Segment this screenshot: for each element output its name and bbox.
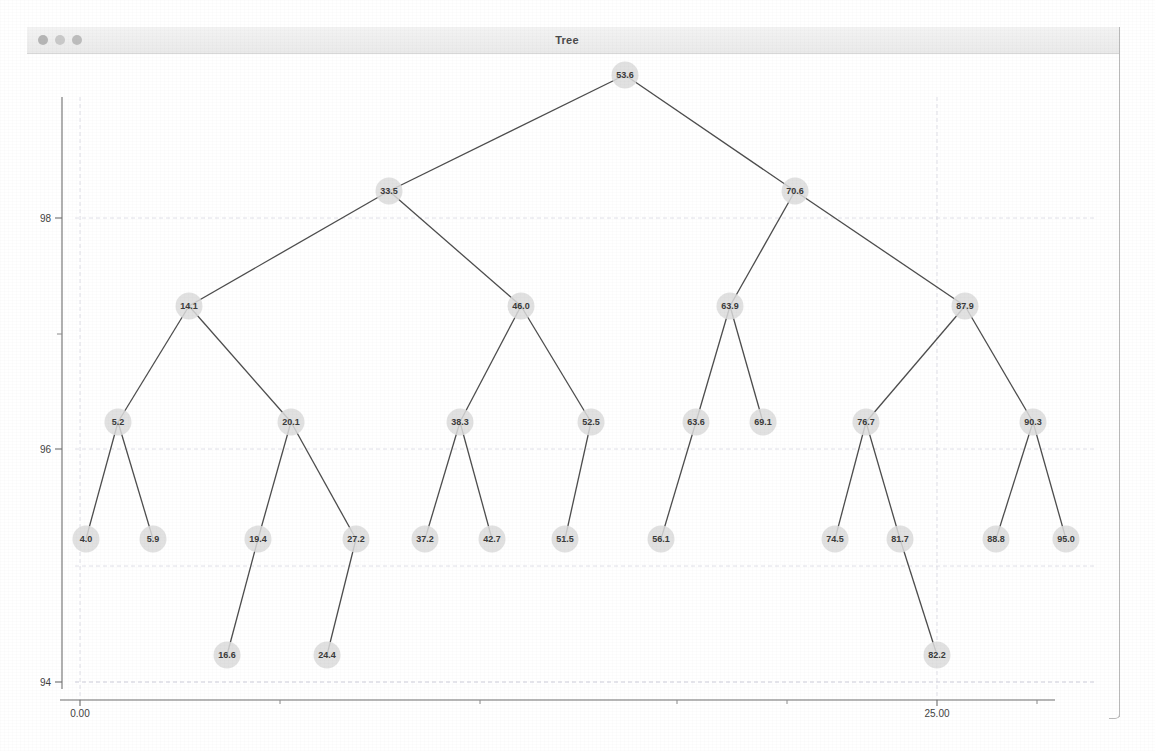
tree-node[interactable]: 20.1 [278,409,305,436]
tree-node-label: 70.6 [786,186,804,196]
window-title: Tree [555,34,578,46]
tree-node[interactable]: 38.3 [447,409,474,436]
tree-edge [291,422,356,539]
tree-edge [389,75,625,191]
tree-node-label: 37.2 [416,534,434,544]
tree-node[interactable]: 19.4 [245,526,272,553]
tree-node[interactable]: 88.8 [983,526,1010,553]
tree-edge [327,539,356,655]
tree-node[interactable]: 90.3 [1020,409,1047,436]
tree-chart-svg: 53.633.570.614.146.063.987.95.220.138.35… [27,53,1119,717]
tree-node[interactable]: 69.1 [750,409,777,436]
y-tick-label: 96 [40,444,52,455]
window-titlebar[interactable]: Tree [27,27,1119,54]
tree-node-label: 69.1 [754,417,772,427]
tree-node-label: 87.9 [956,301,974,311]
tree-edge [118,306,189,422]
minimize-dot-icon[interactable] [55,35,65,45]
tree-node[interactable]: 33.5 [376,178,403,205]
tree-node[interactable]: 63.9 [717,293,744,320]
tree-edge [866,306,965,422]
tree-edge [189,191,389,306]
tree-node[interactable]: 42.7 [479,526,506,553]
tree-node[interactable]: 24.4 [314,642,341,669]
tree-node[interactable]: 37.2 [412,526,439,553]
tree-node[interactable]: 53.6 [612,62,639,89]
tree-edges-group [86,75,1066,655]
tree-window: Tree 53.633.570.614.146.063.987.95.220.1… [27,27,1120,717]
tree-edge [389,191,521,306]
tree-edge [730,306,763,422]
close-dot-icon[interactable] [38,35,48,45]
tree-node-label: 5.2 [112,417,125,427]
tree-node[interactable]: 14.1 [176,293,203,320]
tree-node[interactable]: 76.7 [853,409,880,436]
tree-edge [625,75,795,191]
tree-edge [996,422,1033,539]
tree-edge [835,422,866,539]
tree-edge [258,422,291,539]
axes-group [55,97,1055,706]
tree-node-label: 53.6 [616,70,634,80]
tree-edge [900,539,937,655]
tree-edge [460,422,492,539]
tree-nodes-group: 53.633.570.614.146.063.987.95.220.138.35… [73,62,1080,669]
tree-node-label: 38.3 [451,417,469,427]
tree-node-label: 82.2 [928,650,946,660]
tree-node[interactable]: 4.0 [73,526,100,553]
zoom-dot-icon[interactable] [72,35,82,45]
tree-node-label: 88.8 [987,534,1005,544]
tree-node[interactable]: 70.6 [782,178,809,205]
tree-node[interactable]: 87.9 [952,293,979,320]
tree-node[interactable]: 74.5 [822,526,849,553]
tree-node-label: 42.7 [483,534,501,544]
tree-node[interactable]: 81.7 [887,526,914,553]
tree-edge [425,422,460,539]
tree-edge [1033,422,1066,539]
tree-node[interactable]: 56.1 [648,526,675,553]
tree-node-label: 81.7 [891,534,909,544]
tree-edge [696,306,730,422]
window-controls[interactable] [38,35,82,45]
tree-node-label: 74.5 [826,534,844,544]
tree-node-label: 51.5 [556,534,574,544]
tree-node[interactable]: 63.6 [683,409,710,436]
tree-node[interactable]: 16.6 [214,642,241,669]
tree-node-label: 95.0 [1057,534,1075,544]
tree-plot-area: 53.633.570.614.146.063.987.95.220.138.35… [27,53,1119,717]
tree-node-label: 90.3 [1024,417,1042,427]
tree-node-label: 27.2 [347,534,365,544]
tree-node-label: 46.0 [512,301,530,311]
tree-edge [227,539,258,655]
tree-node[interactable]: 52.5 [578,409,605,436]
tree-edge [730,191,795,306]
tree-node-label: 19.4 [249,534,267,544]
tree-node-label: 52.5 [582,417,600,427]
tree-node[interactable]: 51.5 [552,526,579,553]
tree-node[interactable]: 46.0 [508,293,535,320]
tree-node-label: 20.1 [282,417,300,427]
tree-node-label: 4.0 [80,534,93,544]
y-tick-label: 94 [40,677,52,688]
tree-edge [460,306,521,422]
tree-node-label: 24.4 [318,650,336,660]
tree-node-label: 16.6 [218,650,236,660]
tree-node[interactable]: 82.2 [924,642,951,669]
tree-node-label: 33.5 [380,186,398,196]
tree-edge [565,422,591,539]
x-tick-label: 25.00 [924,708,949,717]
gridlines-group [75,97,1097,700]
tree-node-label: 14.1 [180,301,198,311]
tree-node[interactable]: 5.9 [140,526,167,553]
tree-node[interactable]: 5.2 [105,409,132,436]
x-tick-label: 0.00 [70,708,90,717]
tree-edge [118,422,153,539]
tree-edge [795,191,965,306]
tree-edge [189,306,291,422]
tree-node-label: 76.7 [857,417,875,427]
tree-node[interactable]: 95.0 [1053,526,1080,553]
y-tick-label: 98 [40,213,52,224]
tree-edge [86,422,118,539]
tree-node-label: 63.9 [721,301,739,311]
tree-node[interactable]: 27.2 [343,526,370,553]
